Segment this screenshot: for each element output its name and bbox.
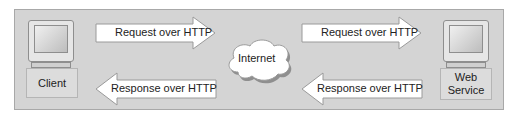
web-service-label: Web Service	[440, 68, 492, 100]
request-arrow-right: Request over HTTP	[301, 16, 423, 50]
client-label: Client	[26, 68, 78, 98]
screen	[449, 25, 483, 53]
response-arrow-right: Response over HTTP	[301, 72, 423, 106]
monitor-icon	[443, 20, 489, 62]
screen	[34, 25, 68, 53]
response-arrow-left: Response over HTTP	[95, 72, 217, 106]
internet-cloud: Internet	[224, 36, 294, 84]
monitor-icon	[28, 20, 74, 62]
request-arrow-left: Request over HTTP	[95, 16, 217, 50]
